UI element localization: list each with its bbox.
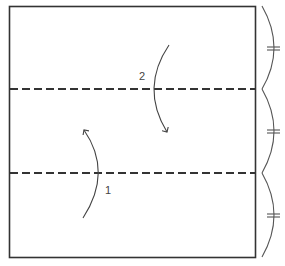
paper-square: [10, 7, 256, 258]
fold-diagram: 2 1: [0, 0, 285, 266]
equal-thirds-brace: [262, 6, 274, 257]
step-label-1: 1: [105, 184, 111, 196]
step-label-2: 2: [139, 70, 145, 82]
brace-segment-3: [262, 173, 274, 257]
brace-segment-2: [262, 89, 274, 173]
diagram-svg: 2 1: [0, 0, 285, 266]
